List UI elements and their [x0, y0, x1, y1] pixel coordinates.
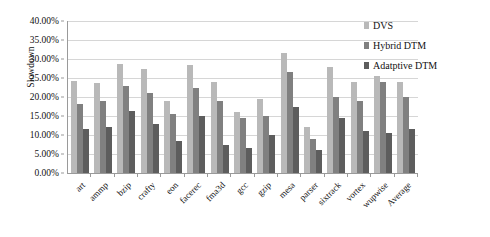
- y-tick-label: 25.00%: [30, 73, 59, 83]
- x-label-cell: fma3d: [208, 178, 231, 234]
- x-label-cell: mesa: [278, 178, 301, 234]
- bar-group: [231, 21, 254, 173]
- x-label-cell: gcc: [231, 178, 254, 234]
- bar-group: [185, 21, 208, 173]
- y-tick-mark: [61, 116, 64, 117]
- legend-label: Adatptive DTM: [373, 60, 437, 71]
- bar-group: [161, 21, 184, 173]
- y-tick-mark: [61, 135, 64, 136]
- bar: [83, 129, 89, 173]
- x-tick-cell: [161, 173, 184, 177]
- bar-group: [115, 21, 138, 173]
- x-label-cell: sixtrack: [325, 178, 348, 234]
- y-tick-mark: [61, 97, 64, 98]
- x-label-cell: art: [68, 178, 91, 234]
- bar: [293, 107, 299, 174]
- y-axis-tick-labels: 0.00%5.00%10.00%15.00%20.00%25.00%30.00%…: [0, 21, 64, 173]
- x-category-label: art: [73, 180, 87, 194]
- x-tick-cell: [185, 173, 208, 177]
- y-tick-mark: [61, 21, 64, 22]
- legend-entry: DVS: [364, 20, 437, 31]
- x-category-label: gzip: [255, 180, 273, 198]
- legend-swatch-icon: [364, 62, 369, 69]
- x-label-cell: ammp: [91, 178, 114, 234]
- bar-group: [68, 21, 91, 173]
- x-label-cell: bzip: [115, 178, 138, 234]
- x-tick-cell: [395, 173, 418, 177]
- x-axis-category-labels: artammpbzipcraftyeonfacerecfma3dgccgzipm…: [68, 178, 418, 234]
- x-label-cell: gzip: [255, 178, 278, 234]
- slowdown-bar-chart: Slowdown 0.00%5.00%10.00%15.00%20.00%25.…: [0, 0, 490, 237]
- chart-legend: DVSHybrid DTMAdatptive DTM: [364, 20, 437, 71]
- y-tick-label: 20.00%: [30, 92, 59, 102]
- x-tick-cell: [115, 173, 138, 177]
- x-tick-cell: [91, 173, 114, 177]
- legend-label: DVS: [373, 20, 393, 31]
- bar-group: [255, 21, 278, 173]
- x-axis-tick-marks: [68, 173, 418, 177]
- bar-group: [325, 21, 348, 173]
- x-label-cell: crafty: [138, 178, 161, 234]
- bar-group: [301, 21, 324, 173]
- bar: [106, 127, 112, 173]
- bar: [153, 124, 159, 173]
- y-tick-label: 35.00%: [30, 35, 59, 45]
- bar-group: [208, 21, 231, 173]
- bar: [409, 129, 415, 173]
- bar: [176, 141, 182, 173]
- y-tick-label: 15.00%: [30, 111, 59, 121]
- bar: [386, 133, 392, 173]
- x-label-cell: Average: [395, 178, 418, 234]
- legend-label: Hybrid DTM: [373, 40, 426, 51]
- bar-group: [278, 21, 301, 173]
- bar: [223, 145, 229, 174]
- legend-swatch-icon: [364, 22, 369, 29]
- bar-group: [91, 21, 114, 173]
- bar: [246, 148, 252, 173]
- x-tick-cell: [348, 173, 371, 177]
- x-category-label: ammp: [87, 180, 110, 203]
- x-category-label: mesa: [277, 180, 297, 200]
- x-tick-cell: [371, 173, 394, 177]
- x-category-label: bzip: [115, 180, 133, 198]
- bar-group: [138, 21, 161, 173]
- bar: [129, 111, 135, 173]
- y-tick-mark: [61, 154, 64, 155]
- x-category-label: eon: [164, 180, 180, 196]
- x-category-label: gcc: [234, 180, 250, 196]
- bar: [339, 118, 345, 173]
- legend-swatch-icon: [364, 42, 369, 49]
- y-tick-label: 0.00%: [34, 168, 59, 178]
- x-tick-cell: [255, 173, 278, 177]
- x-tick-cell: [301, 173, 324, 177]
- x-tick-cell: [138, 173, 161, 177]
- y-tick-mark: [61, 173, 64, 174]
- y-tick-label: 10.00%: [30, 130, 59, 140]
- x-category-label: crafty: [135, 180, 157, 202]
- x-tick-cell: [231, 173, 254, 177]
- x-label-cell: eon: [161, 178, 184, 234]
- y-tick-label: 30.00%: [30, 54, 59, 64]
- y-tick-mark: [61, 78, 64, 79]
- x-tick-cell: [208, 173, 231, 177]
- x-tick-cell: [68, 173, 91, 177]
- x-tick-cell: [278, 173, 301, 177]
- x-tick-cell: [325, 173, 348, 177]
- bar: [363, 131, 369, 173]
- y-tick-label: 5.00%: [34, 149, 59, 159]
- y-tick-mark: [61, 40, 64, 41]
- y-tick-label: 40.00%: [30, 16, 59, 26]
- legend-entry: Adatptive DTM: [364, 60, 437, 71]
- bar: [269, 135, 275, 173]
- y-tick-mark: [61, 59, 64, 60]
- legend-entry: Hybrid DTM: [364, 40, 437, 51]
- x-label-cell: facerec: [185, 178, 208, 234]
- bar: [316, 150, 322, 173]
- bar: [199, 116, 205, 173]
